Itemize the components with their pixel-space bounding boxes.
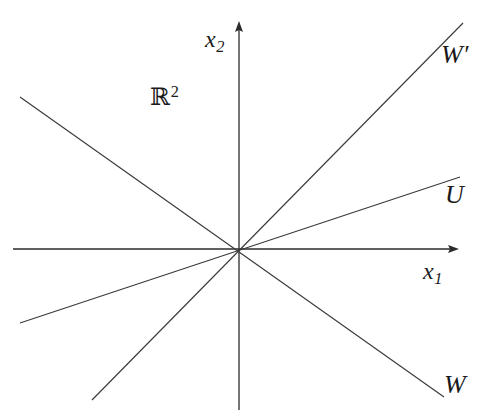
y-axis-label-subscript: 2 (216, 37, 224, 56)
figure-canvas: x2 x1 ℝ2 W′ U W (0, 0, 497, 419)
line-label-w-base: W (444, 370, 466, 399)
plane-label: ℝ2 (150, 84, 179, 109)
axes-group (13, 21, 459, 410)
line-w (20, 97, 444, 397)
y-axis-label: x2 (205, 27, 225, 55)
line-label-w: W (444, 372, 466, 398)
subspace-lines-group (20, 23, 463, 400)
x-axis-label-subscript: 1 (434, 269, 442, 288)
line-label-w-prime-mark: ′ (463, 40, 469, 69)
line-label-w-prime: W′ (441, 42, 469, 68)
diagram-svg (0, 0, 497, 419)
x-axis-label-base: x (423, 258, 434, 284)
y-axis-label-base: x (205, 26, 216, 52)
plane-label-base: ℝ (150, 83, 170, 111)
line-label-u-base: U (445, 180, 464, 209)
line-label-u: U (445, 182, 464, 208)
line-w-prime (92, 23, 463, 400)
line-label-w-prime-base: W (441, 40, 463, 69)
plane-label-exponent: 2 (171, 82, 179, 101)
line-u (20, 177, 460, 323)
x-axis-label: x1 (423, 259, 443, 287)
